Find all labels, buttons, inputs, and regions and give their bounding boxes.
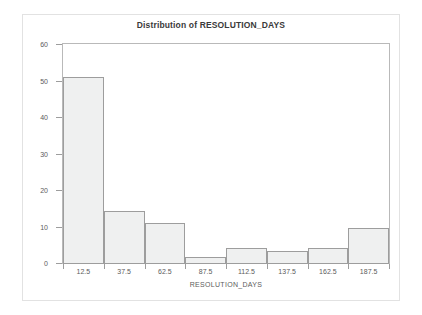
x-axis-tick-mark	[308, 264, 309, 269]
histogram-bar-rect	[145, 223, 186, 264]
histogram-bar	[348, 45, 389, 264]
histogram-bar-rect	[63, 77, 104, 264]
x-axis-tick-mark	[63, 264, 64, 269]
histogram-bar	[185, 45, 226, 264]
y-axis-tick-mark	[56, 263, 62, 264]
y-axis-tick-mark	[56, 44, 62, 45]
histogram-bar	[104, 45, 145, 264]
histogram-bar-rect	[185, 257, 226, 264]
y-axis-tick-mark	[56, 81, 62, 82]
x-axis-title: RESOLUTION_DAYS	[62, 281, 390, 288]
y-axis-tick-label: 30	[8, 150, 48, 157]
x-axis-tick-mark	[104, 264, 105, 269]
histogram-bar-rect	[226, 248, 267, 264]
x-axis-tick-mark	[389, 264, 390, 269]
x-axis-tick-mark	[267, 264, 268, 269]
x-axis-tick-mark	[185, 264, 186, 269]
y-axis-tick-mark	[56, 190, 62, 191]
x-axis-tick-mark	[226, 264, 227, 269]
histogram-bar-rect	[267, 251, 308, 265]
y-axis-tick-label: 0	[8, 260, 48, 267]
plot-area	[63, 44, 389, 264]
histogram-bar-rect	[348, 228, 389, 264]
histogram-bar	[226, 45, 267, 264]
histogram-bar	[145, 45, 186, 264]
histogram-bar	[267, 45, 308, 264]
y-axis-tick-label: 50	[8, 77, 48, 84]
y-axis-tick-mark	[56, 227, 62, 228]
histogram-bar-rect	[308, 248, 349, 264]
chart-title: Distribution of RESOLUTION_DAYS	[0, 20, 422, 30]
y-axis-tick-label: 20	[8, 187, 48, 194]
histogram-bar	[308, 45, 349, 264]
x-axis-tick-mark	[348, 264, 349, 269]
y-axis-tick-label: 60	[8, 41, 48, 48]
x-axis-tick-label: 187.5	[345, 268, 393, 275]
y-axis-tick-mark	[56, 154, 62, 155]
histogram-bar	[63, 45, 104, 264]
y-axis-tick-mark	[56, 117, 62, 118]
y-axis-tick-label: 10	[8, 223, 48, 230]
y-axis-tick-label: 40	[8, 114, 48, 121]
histogram-bar-rect	[104, 211, 145, 264]
x-axis-tick-mark	[145, 264, 146, 269]
